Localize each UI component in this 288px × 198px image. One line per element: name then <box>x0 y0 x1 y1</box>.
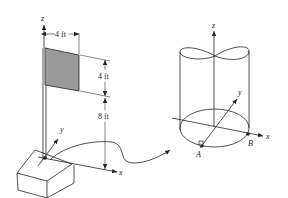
z-axis-label-right: z <box>211 21 216 30</box>
cylinder-base-ellipse <box>180 109 249 147</box>
flag-height-label: 4 ft <box>98 72 110 81</box>
point-b-label: B <box>248 139 253 148</box>
y-axis-label-right: y <box>237 88 242 97</box>
x-axis-label-left: x <box>118 168 123 177</box>
pole-height-label: 8 ft <box>98 112 110 121</box>
z-axis-label-left: z <box>40 14 45 23</box>
x-axis-label-right: x <box>265 132 270 141</box>
flagpole-diagram: z y x 4 ft 4 ft 8 ft <box>0 0 288 198</box>
left-figure: z y x 4 ft 4 ft 8 ft <box>17 14 123 198</box>
point-b <box>246 132 250 136</box>
y-axis-right <box>200 99 237 148</box>
flag-width-label: 4 ft <box>55 30 67 39</box>
cylinder-top-section <box>180 47 249 60</box>
dimension-flag-height: 4 ft <box>80 55 110 97</box>
connector-arrow <box>50 142 170 163</box>
point-a <box>200 144 203 147</box>
dimension-pole-height: 8 ft <box>98 98 110 169</box>
point-a-label: A <box>195 150 201 159</box>
y-axis-label-left: y <box>59 125 64 134</box>
flag <box>45 48 79 91</box>
right-figure: z y x A B <box>172 21 270 159</box>
